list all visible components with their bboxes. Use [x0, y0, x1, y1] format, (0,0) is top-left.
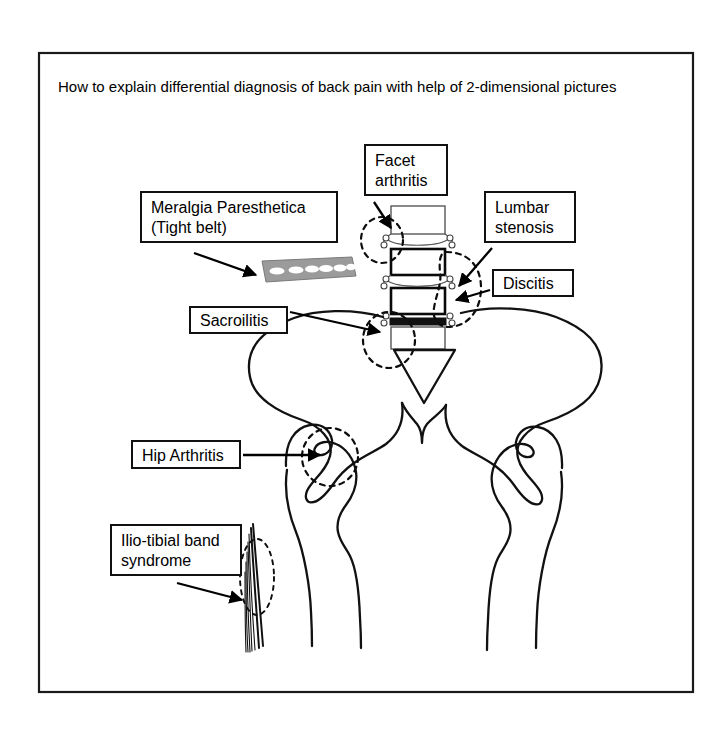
- left-femur-shaft-inner: [286, 470, 312, 646]
- arrow-sacroiliitis: [290, 312, 380, 332]
- vertebral-body-1: [391, 206, 445, 234]
- facet-joint-dot: [383, 235, 389, 241]
- arrow-discitis: [456, 290, 490, 300]
- facet-joint-dot: [383, 276, 389, 282]
- right-femur-shaft-inner: [536, 472, 562, 648]
- vertebral-body-4: [391, 327, 445, 349]
- tight-belt: [262, 257, 356, 282]
- callout-sacroiliitis[interactable]: Sacroilitis: [189, 306, 288, 334]
- facet-joint-dot: [447, 313, 453, 319]
- facet-joint-dot: [381, 320, 387, 326]
- callout-hip-arthritis[interactable]: Hip Arthritis: [131, 440, 241, 469]
- callout-iliotibial-band-syndrome[interactable]: Ilio-tibial band syndrome: [110, 524, 242, 576]
- belt-hole: [305, 265, 319, 272]
- facet-joint-dot: [381, 242, 387, 248]
- callout-facet-arthritis[interactable]: Facet arthritis: [364, 144, 448, 196]
- belt-hole: [270, 267, 285, 274]
- facet-joint-dot: [449, 242, 455, 248]
- callout-lumbar-stenosis[interactable]: Lumbar stenosis: [484, 191, 576, 243]
- lumbar-spine: [381, 206, 455, 349]
- sacrum: [394, 350, 455, 403]
- iliotibial-band: [245, 524, 263, 652]
- belt-hole: [346, 264, 356, 270]
- facet-joint-dot: [447, 235, 453, 241]
- belt-hole: [319, 265, 333, 272]
- callout-meralgia-paresthetica[interactable]: Meralgia Paresthetica (Tight belt): [140, 191, 338, 243]
- facet-joint-dot: [381, 283, 387, 289]
- arrow-meralgia: [194, 253, 256, 275]
- facet-joint-dot: [447, 276, 453, 282]
- vertebral-body-3: [391, 288, 445, 314]
- belt-hole: [334, 265, 347, 272]
- left-ilium: [249, 311, 403, 502]
- facet-joint-dot: [449, 320, 455, 326]
- arrow-facet: [374, 202, 391, 228]
- pubic-symphysis: [402, 403, 446, 443]
- diagram-canvas: [0, 0, 716, 737]
- callout-discitis[interactable]: Discitis: [492, 269, 574, 297]
- belt-hole: [289, 266, 304, 273]
- arrow-stenosis: [459, 248, 492, 286]
- facet-joint-dot: [449, 283, 455, 289]
- facet-joint-dot: [383, 313, 389, 319]
- right-ilium: [446, 308, 602, 504]
- arrow-itband: [177, 583, 242, 600]
